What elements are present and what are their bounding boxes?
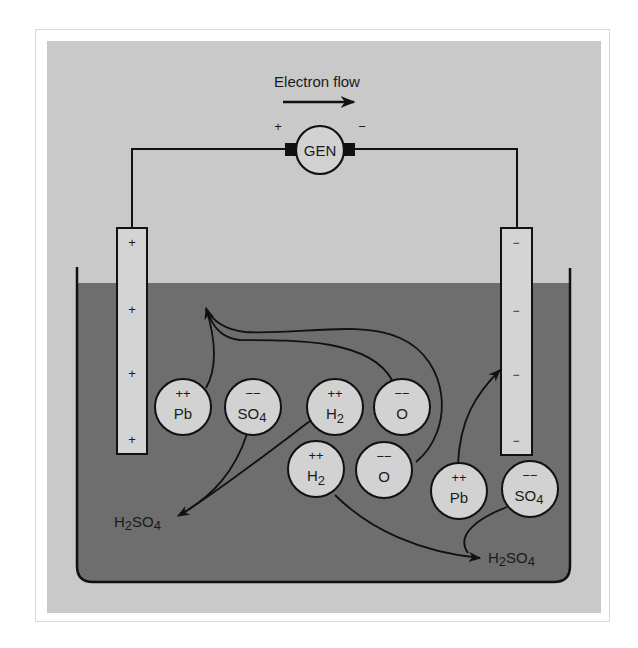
generator-negative-sign: − xyxy=(358,119,366,134)
plus-sign: + xyxy=(128,432,136,447)
wire-positive xyxy=(132,149,290,228)
positive-electrode: + + + + xyxy=(117,228,147,454)
wire-negative xyxy=(350,149,517,228)
ion-o-upper: −− O xyxy=(374,379,430,435)
ion-charge: −− xyxy=(522,468,537,483)
ion-so4-right: −− SO4 xyxy=(502,461,558,517)
ion-formula: Pb xyxy=(174,405,192,422)
ion-charge: ++ xyxy=(451,470,466,485)
negative-electrode: − − − − xyxy=(501,228,532,455)
ion-pb-left: ++ Pb xyxy=(155,379,211,435)
ion-h2-upper: ++ H2 xyxy=(307,379,363,435)
ion-charge: −− xyxy=(376,449,391,464)
minus-sign: − xyxy=(512,434,519,448)
generator: GEN + − xyxy=(274,119,366,174)
ion-pb-right: ++ Pb xyxy=(431,463,487,519)
ion-charge: ++ xyxy=(308,448,323,463)
ion-o-lower: −− O xyxy=(356,442,412,498)
ion-charge: ++ xyxy=(327,386,342,401)
ion-so4-left: −− SO4 xyxy=(225,379,281,435)
ion-formula: O xyxy=(378,468,390,485)
ion-charge: −− xyxy=(394,386,409,401)
ion-formula: Pb xyxy=(450,489,468,506)
plus-sign: + xyxy=(128,366,136,381)
ion-h2-lower: ++ H2 xyxy=(288,441,344,497)
generator-label: GEN xyxy=(304,142,337,159)
plus-sign: + xyxy=(128,235,136,250)
ion-charge: −− xyxy=(245,386,260,401)
generator-positive-sign: + xyxy=(274,119,282,134)
ion-charge: ++ xyxy=(175,386,190,401)
minus-sign: − xyxy=(512,368,519,382)
minus-sign: − xyxy=(512,236,519,250)
minus-sign: − xyxy=(512,304,519,318)
ion-formula: O xyxy=(396,405,408,422)
electron-flow-label: Electron flow xyxy=(274,73,360,90)
figure-canvas: Electron flow GEN + − + + + + − − − xyxy=(0,0,638,648)
electrolysis-diagram: Electron flow GEN + − + + + + − − − xyxy=(0,0,638,648)
plus-sign: + xyxy=(128,302,136,317)
